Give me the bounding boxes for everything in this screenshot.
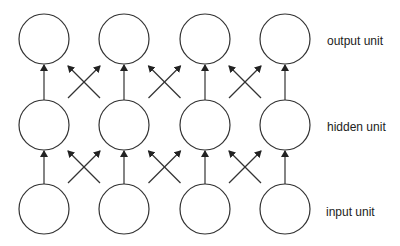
output-layer-label: output unit bbox=[327, 34, 383, 48]
output-unit-1 bbox=[19, 14, 69, 64]
output-unit-4 bbox=[260, 14, 310, 64]
edges-group bbox=[44, 65, 285, 184]
hidden-unit-3 bbox=[180, 100, 230, 150]
hidden-unit-1 bbox=[19, 100, 69, 150]
input-layer-label: input unit bbox=[326, 205, 375, 219]
hidden-unit-2 bbox=[99, 100, 149, 150]
input-unit-2 bbox=[99, 184, 149, 234]
input-unit-1 bbox=[19, 184, 69, 234]
output-unit-3 bbox=[180, 14, 230, 64]
input-unit-3 bbox=[180, 184, 230, 234]
nodes-group bbox=[19, 14, 310, 234]
input-unit-4 bbox=[260, 184, 310, 234]
hidden-unit-4 bbox=[260, 100, 310, 150]
output-unit-2 bbox=[99, 14, 149, 64]
hidden-layer-label: hidden unit bbox=[327, 120, 386, 134]
